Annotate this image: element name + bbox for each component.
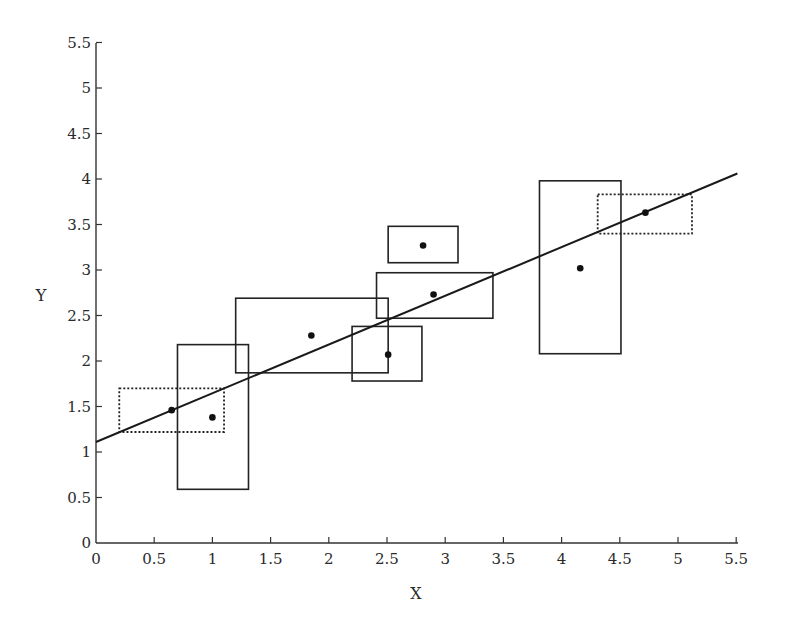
y-tick-label: 2 (81, 352, 91, 370)
y-tick-label: 0 (81, 534, 91, 552)
data-point (642, 209, 649, 216)
x-tick-label: 1.5 (259, 550, 283, 568)
y-tick-label: 3 (81, 261, 91, 279)
scatter-chart: 00.511.522.533.544.555.5 00.511.522.533.… (0, 0, 785, 636)
y-tick-label: 0.5 (67, 489, 91, 507)
regression-line (96, 174, 737, 442)
y-tick-label: 5 (81, 79, 91, 97)
data-point (308, 332, 315, 339)
x-axis-title: X (410, 584, 422, 603)
y-tick-label: 3.5 (67, 216, 91, 234)
data-point (420, 242, 427, 249)
x-tick-label: 1 (208, 550, 218, 568)
data-point (577, 265, 584, 272)
x-tick-label: 3 (440, 550, 450, 568)
x-tick-label: 0 (91, 550, 101, 568)
y-tick-label: 4 (81, 170, 91, 188)
x-tick-label: 2.5 (375, 550, 399, 568)
y-tick-label: 1 (81, 443, 91, 461)
x-tick-label: 4.5 (608, 550, 632, 568)
y-axis-title: Y (35, 286, 47, 305)
x-tick-label: 4 (557, 550, 567, 568)
x-tick-label: 3.5 (491, 550, 515, 568)
y-ticks: 00.511.522.533.544.555.5 (67, 34, 102, 553)
x-tick-label: 0.5 (142, 550, 166, 568)
x-tick-label: 2 (324, 550, 334, 568)
data-point (168, 407, 175, 414)
axes (96, 43, 738, 543)
y-tick-label: 1.5 (67, 398, 91, 416)
data-point (209, 414, 216, 421)
x-tick-label: 5 (673, 550, 683, 568)
data-point (385, 351, 392, 358)
y-tick-label: 2.5 (67, 307, 91, 325)
uncertainty-boxes (119, 181, 692, 489)
y-tick-label: 4.5 (67, 125, 91, 143)
x-tick-label: 5.5 (724, 550, 748, 568)
y-tick-label: 5.5 (67, 34, 91, 52)
data-point (430, 291, 437, 298)
x-ticks: 00.511.522.533.544.555.5 (91, 537, 748, 568)
